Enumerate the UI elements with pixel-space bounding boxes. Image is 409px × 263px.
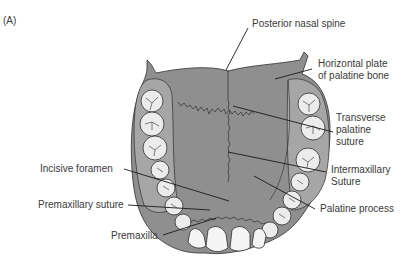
palate-diagram: (A) Posterior nasal spine Horizontal pla… <box>0 0 409 263</box>
label-horizontal-plate-line2: of palatine bone <box>318 70 389 81</box>
label-transverse-line2: palatine <box>336 124 371 135</box>
label-horizontal-plate-line1: Horizontal plate <box>318 58 387 69</box>
label-intermaxillary-line2: Suture <box>331 176 360 187</box>
label-transverse-line3: suture <box>336 136 364 147</box>
label-incisive-foramen: Incisive foramen <box>40 163 113 174</box>
label-transverse-line1: Transverse <box>336 112 386 123</box>
label-premaxilla: Premaxilla <box>111 230 158 241</box>
label-posterior-nasal-spine: Posterior nasal spine <box>252 18 345 29</box>
label-intermaxillary-line1: Intermaxillary <box>331 164 390 175</box>
label-premaxillary-suture: Premaxillary suture <box>38 199 124 210</box>
label-palatine-process: Palatine process <box>320 203 394 214</box>
panel-label: (A) <box>3 15 16 26</box>
